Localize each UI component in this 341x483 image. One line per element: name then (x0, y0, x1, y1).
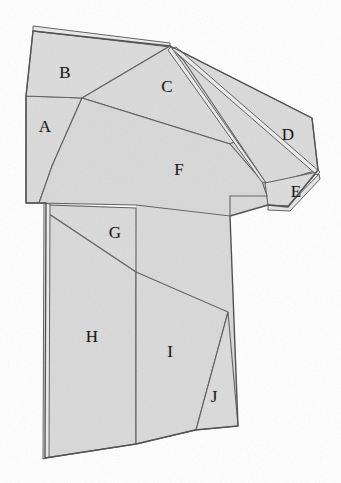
panel-label-i: I (167, 343, 173, 360)
paper-grain (0, 0, 341, 483)
panel-label-j: J (211, 388, 218, 405)
panel-label-c: C (161, 78, 172, 95)
panel-label-d: D (282, 126, 294, 143)
panel-label-a: A (39, 118, 51, 135)
pattern-svg (0, 0, 341, 483)
panel-label-h: H (86, 328, 98, 345)
panel-label-b: B (59, 64, 70, 81)
panel-label-e: E (291, 183, 301, 200)
panel-label-f: F (174, 161, 183, 178)
pattern-diagram (0, 0, 341, 483)
panel-label-g: G (109, 224, 121, 241)
